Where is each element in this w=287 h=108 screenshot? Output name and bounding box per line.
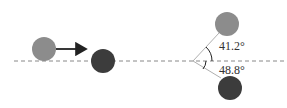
upper-angle-arc [206, 47, 212, 61]
collision-diagram: 41.2° 48.8° [0, 0, 287, 108]
lower-angle-label: 48.8° [219, 63, 245, 77]
target-ball [91, 49, 115, 73]
upper-angle-label: 41.2° [219, 39, 245, 53]
incoming-ball [32, 37, 56, 61]
upper-ball [215, 12, 239, 36]
lower-trajectory-line [193, 61, 221, 78]
lower-ball [218, 76, 242, 100]
